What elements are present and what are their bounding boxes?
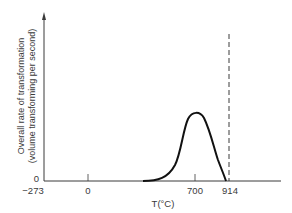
y-axis-label-line1: Overall rate of transformation [16,38,26,155]
x-tick-label: 700 [187,185,203,196]
y-axis-arrow-icon [42,12,46,20]
y-axis-label-line2: (volume transforming per second) [27,29,37,164]
x-tick-label: −273 [22,185,43,196]
x-tick-label: 914 [222,185,238,196]
x-axis-label: T(°C) [152,198,175,209]
rate-curve [143,113,226,181]
chart: 0 −273 0 700 914 T(°C) Overall rate of t… [0,0,292,213]
y-origin-label: 0 [34,173,39,184]
x-tick-label: 0 [85,185,90,196]
